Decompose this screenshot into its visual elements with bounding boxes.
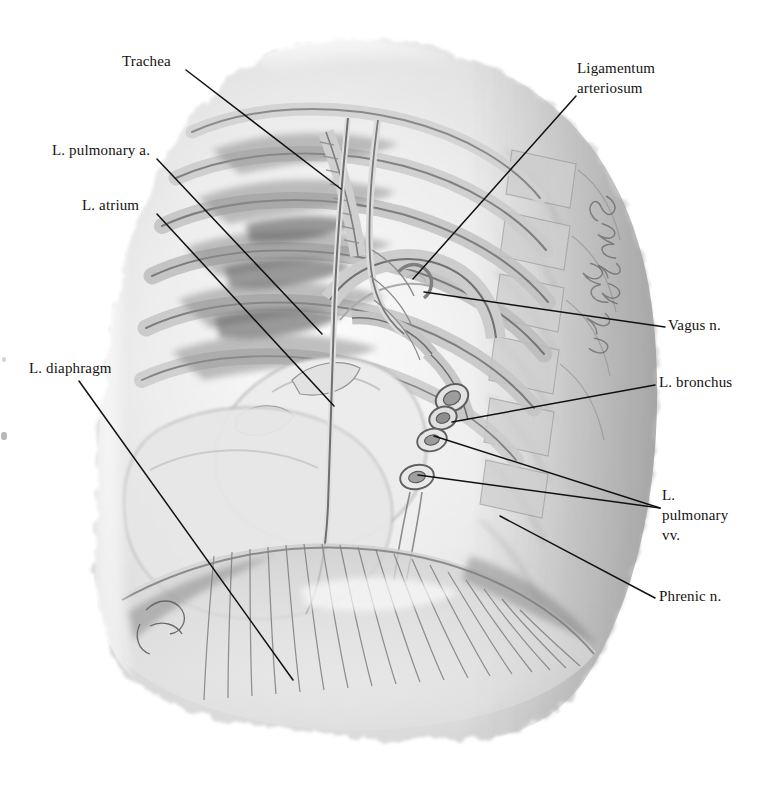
leader-ligamentum-arteriosum [413,96,576,279]
label-ligamentum-arteriosum: Ligamentum arteriosum [577,58,655,98]
leader-trachea [186,70,341,189]
leader-l-pulmonary-vv-upper [434,436,660,508]
label-l-diaphragm: L. diaphragm [29,358,112,378]
leader-phrenic-n [500,516,655,598]
leader-l-diaphragm [79,381,293,680]
leader-lines [0,0,762,812]
leader-vagus-n [424,292,665,327]
leader-l-pulmonary-vv-lower [418,475,660,508]
label-phrenic-n: Phrenic n. [659,586,721,606]
anatomical-plate: Trachea L. pulmonary a. L. atrium L. dia… [0,0,762,812]
label-trachea: Trachea [122,51,171,71]
label-vagus-n: Vagus n. [668,315,721,335]
label-l-atrium: L. atrium [82,195,139,215]
leader-l-pulmonary-a [157,159,322,334]
margin-speck [2,357,6,362]
margin-speck [1,432,7,440]
label-l-pulmonary-vv: L. pulmonary vv. [662,485,728,545]
leader-l-atrium [157,214,334,406]
leader-l-bronchus [452,385,655,422]
label-l-bronchus: L. bronchus [659,372,732,392]
label-l-pulmonary-a: L. pulmonary a. [52,140,150,160]
